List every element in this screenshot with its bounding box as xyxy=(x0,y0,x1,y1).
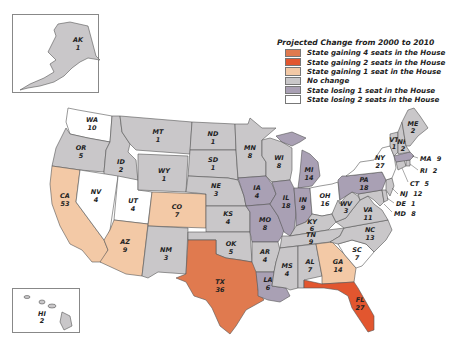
state-abbr-DE: DE xyxy=(396,200,406,208)
legend-item-lose1: State losing 1 seat in the House xyxy=(285,86,453,95)
state-abbr-CO: CO xyxy=(172,203,183,211)
svg-text:1: 1 xyxy=(162,175,167,183)
svg-text:FL: FL xyxy=(356,296,365,304)
state-seats-FL: 27 xyxy=(355,304,365,312)
state-seats-AL: 7 xyxy=(308,266,313,274)
svg-text:UT: UT xyxy=(128,197,138,205)
legend-label: State gaining 2 seats in the House xyxy=(307,58,445,67)
svg-text:IA: IA xyxy=(253,184,260,192)
state-CO[interactable]: CO 7 xyxy=(148,192,206,228)
state-seats-MS: 4 xyxy=(285,270,290,278)
state-seats-ME: 2 xyxy=(411,127,416,135)
svg-text:7: 7 xyxy=(175,211,180,219)
state-seats-WV: 3 xyxy=(344,207,349,215)
legend-label: State losing 1 seat in the House xyxy=(307,86,435,95)
state-WI[interactable]: WI 8 xyxy=(262,138,292,182)
state-abbr-OH: OH xyxy=(320,192,332,200)
state-KS[interactable]: KS 4 xyxy=(206,206,250,232)
svg-text:OR: OR xyxy=(76,144,87,152)
svg-text:8: 8 xyxy=(248,152,253,160)
state-NM[interactable]: NM 3 xyxy=(142,226,188,278)
state-abbr-IN: IN xyxy=(299,196,307,204)
svg-text:16: 16 xyxy=(320,200,330,208)
svg-text:OH: OH xyxy=(320,192,332,200)
svg-text:MT: MT xyxy=(153,128,164,136)
svg-text:NJ 12: NJ 12 xyxy=(400,190,423,198)
svg-text:MN: MN xyxy=(244,144,256,152)
state-seats-NV: 4 xyxy=(94,196,99,204)
state-abbr-SC: SC xyxy=(352,246,362,254)
svg-text:2: 2 xyxy=(411,127,416,135)
state-ND[interactable]: ND 1 xyxy=(190,122,236,150)
state-seats-AR: 4 xyxy=(263,256,268,264)
svg-text:NM: NM xyxy=(160,246,172,254)
svg-text:MD 8: MD 8 xyxy=(394,210,416,218)
state-HI[interactable]: HI 2 xyxy=(24,296,72,331)
state-seats-WI: 8 xyxy=(277,162,282,170)
state-seats-ID: 2 xyxy=(119,166,124,174)
state-abbr-SD: SD xyxy=(208,156,219,164)
svg-text:10: 10 xyxy=(87,124,97,132)
svg-text:8: 8 xyxy=(277,162,282,170)
callout-RI: RI 2 xyxy=(410,164,438,175)
state-abbr-NM: NM xyxy=(160,246,172,254)
state-abbr-ID: ID xyxy=(117,158,125,166)
callout-MA: MA 9 xyxy=(412,155,442,163)
state-abbr-IA: IA xyxy=(253,184,260,192)
svg-text:3: 3 xyxy=(344,207,349,215)
state-seats-NY: 27 xyxy=(375,162,385,170)
state-ME[interactable]: ME 2 xyxy=(402,108,428,146)
svg-text:9: 9 xyxy=(301,204,306,212)
state-seats-WA: 10 xyxy=(87,124,97,132)
svg-text:2: 2 xyxy=(40,317,45,325)
state-seats-UT: 4 xyxy=(131,205,136,213)
state-MT[interactable]: MT 1 xyxy=(120,116,192,154)
svg-text:4: 4 xyxy=(131,205,136,213)
state-WY[interactable]: WY 1 xyxy=(138,154,188,192)
state-seats-OH: 16 xyxy=(320,200,330,208)
legend-swatch-gain4 xyxy=(285,49,301,57)
state-seats-MI: 14 xyxy=(304,174,314,182)
state-abbr-IL: IL xyxy=(283,194,290,202)
state-seats-AK: 1 xyxy=(76,44,81,52)
svg-text:SC: SC xyxy=(352,246,362,254)
state-seats-DE: 1 xyxy=(411,200,416,208)
svg-text:7: 7 xyxy=(308,266,313,274)
svg-text:9: 9 xyxy=(123,246,128,254)
svg-text:1: 1 xyxy=(211,138,216,146)
state-SD[interactable]: SD 1 xyxy=(188,150,238,180)
state-abbr-LA: LA xyxy=(263,276,272,284)
svg-text:PA: PA xyxy=(359,176,368,184)
svg-text:2: 2 xyxy=(401,145,406,153)
state-AK[interactable]: AK 1 xyxy=(20,22,100,90)
svg-text:KS: KS xyxy=(223,210,233,218)
state-MA[interactable] xyxy=(394,152,414,162)
state-seats-IA: 4 xyxy=(255,192,260,200)
svg-text:5: 5 xyxy=(79,152,84,160)
svg-text:27: 27 xyxy=(375,162,385,170)
svg-text:1: 1 xyxy=(76,44,81,52)
state-seats-NM: 3 xyxy=(164,254,169,262)
svg-text:AR: AR xyxy=(259,248,270,256)
state-FL[interactable]: FL 27 xyxy=(304,280,374,332)
legend-swatch-lose1 xyxy=(285,86,301,94)
svg-text:LA: LA xyxy=(263,276,272,284)
svg-text:CO: CO xyxy=(172,203,183,211)
state-RI[interactable] xyxy=(406,160,410,166)
state-NJ[interactable] xyxy=(386,178,394,196)
svg-text:1: 1 xyxy=(156,136,161,144)
state-abbr-NV: NV xyxy=(91,188,102,196)
svg-text:ND: ND xyxy=(208,130,219,138)
state-abbr-AZ: AZ xyxy=(119,238,130,246)
state-seats-CO: 7 xyxy=(175,211,180,219)
map-legend: Projected Change from 2000 to 2010 State… xyxy=(285,38,453,104)
state-seats-GA: 14 xyxy=(333,266,343,274)
svg-text:NE: NE xyxy=(211,182,221,190)
state-abbr-MD: MD xyxy=(394,210,406,218)
svg-text:4: 4 xyxy=(263,256,268,264)
state-seats-WY: 1 xyxy=(162,175,167,183)
svg-text:MS: MS xyxy=(281,262,292,270)
svg-text:14: 14 xyxy=(304,174,314,182)
svg-text:18: 18 xyxy=(359,184,369,192)
legend-item-none: No change xyxy=(285,76,453,85)
